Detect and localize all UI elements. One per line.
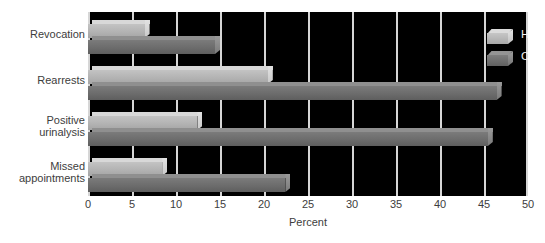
x-tick-label-50: 50 (522, 198, 534, 210)
x-tick-label-25: 25 (302, 198, 314, 210)
bar (88, 158, 167, 172)
bar-face-face (88, 40, 215, 54)
x-tick-label-15: 15 (214, 198, 226, 210)
category-label-line: urinalysis (39, 126, 85, 139)
category-label-missed-appointments: Missedappointments (19, 160, 85, 185)
bar-top-face (92, 36, 220, 40)
bar-control (88, 40, 220, 54)
bar-top-face (92, 82, 502, 86)
x-tick-label-5: 5 (129, 198, 135, 210)
legend-swatch-icon (487, 29, 513, 44)
gridline-25 (308, 12, 310, 196)
gridline-15 (220, 12, 222, 196)
bar-top-face (92, 158, 167, 162)
legend-swatch-face (487, 55, 508, 66)
x-tick-label-35: 35 (390, 198, 402, 210)
gridline-40 (440, 12, 442, 196)
bar (88, 20, 150, 34)
gridline-45 (484, 12, 486, 196)
category-label-line: Missed (19, 160, 85, 173)
legend-label: Control group (521, 50, 528, 62)
category-label-line: Positive (39, 114, 85, 127)
legend-label: HOPE group (521, 28, 528, 40)
legend-item-hope: HOPE group (487, 26, 528, 48)
category-label-revocation: Revocation (30, 28, 85, 41)
bar (88, 66, 273, 80)
x-tick-label-30: 30 (346, 198, 358, 210)
bar (88, 174, 290, 188)
bar-top-face (92, 112, 202, 116)
bar-top-face (92, 66, 273, 70)
bar-control (88, 86, 502, 100)
x-tick-label-45: 45 (478, 198, 490, 210)
category-label-line: Rearrests (37, 74, 85, 87)
bar-face-face (88, 178, 285, 192)
gridline-35 (396, 12, 398, 196)
gridline-30 (352, 12, 354, 196)
bar-cap-face (488, 128, 493, 146)
bar-top-face (92, 20, 150, 24)
x-tick-label-10: 10 (170, 198, 182, 210)
chart-legend: HOPE groupControl group (487, 26, 528, 70)
category-label-positive-urinalysis: Positiveurinalysis (39, 114, 85, 139)
category-label-line: Revocation (30, 28, 85, 41)
x-tick-label-0: 0 (85, 198, 91, 210)
x-axis-ticks: 05101520253035404550 (88, 196, 528, 218)
bar-chart: HOPE groupControl group RevocationRearre… (0, 0, 545, 243)
category-label-rearrests: Rearrests (37, 74, 85, 87)
bar (88, 128, 493, 142)
x-axis-title: Percent (88, 216, 528, 228)
bar-cap-face (497, 82, 502, 100)
legend-item-control: Control group (487, 48, 528, 70)
x-tick-label-20: 20 (258, 198, 270, 210)
bar-control (88, 132, 493, 146)
plot-area: HOPE groupControl group (88, 12, 528, 196)
bar-cap-face (215, 36, 220, 54)
bar-control (88, 178, 290, 192)
legend-swatch-icon (487, 51, 513, 66)
legend-swatch-face (487, 33, 508, 44)
bar-top-face (92, 174, 290, 178)
bar-cap-face (285, 174, 290, 192)
x-tick-label-40: 40 (434, 198, 446, 210)
bar (88, 36, 220, 50)
bar (88, 112, 202, 126)
category-label-line: appointments (19, 172, 85, 185)
bar-top-face (92, 128, 493, 132)
gridline-20 (264, 12, 266, 196)
bar-face-face (88, 132, 488, 146)
bar (88, 82, 502, 96)
bar-face-face (88, 86, 497, 100)
